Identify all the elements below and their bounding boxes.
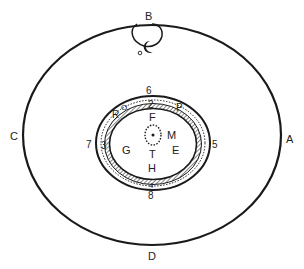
label-t: T [149, 148, 156, 160]
top-loop [132, 24, 162, 47]
label-8: 8 [148, 190, 154, 201]
label-6: 6 [146, 85, 152, 96]
small-circle-icon [138, 51, 142, 55]
label-h: H [148, 162, 156, 174]
label-2: 2 [148, 99, 154, 110]
label-3: 3 [101, 140, 107, 151]
label-bottom: D [148, 250, 156, 262]
label-4: 4 [149, 181, 154, 190]
label-right: A [286, 133, 294, 145]
label-r: R [112, 109, 119, 120]
label-g: G [122, 144, 131, 156]
label-o: O [121, 103, 127, 112]
label-5: 5 [212, 139, 218, 150]
concentric-diagram: B A D C 6 5 8 7 2 3 4 O R P F M E G T H [0, 0, 304, 269]
label-p: P [176, 102, 183, 113]
label-7: 7 [86, 139, 92, 150]
label-e: E [172, 144, 179, 156]
label-left: C [10, 130, 18, 142]
label-top: B [145, 10, 152, 22]
label-f: F [149, 111, 156, 123]
center-dot [152, 134, 155, 137]
label-m: M [167, 129, 176, 141]
